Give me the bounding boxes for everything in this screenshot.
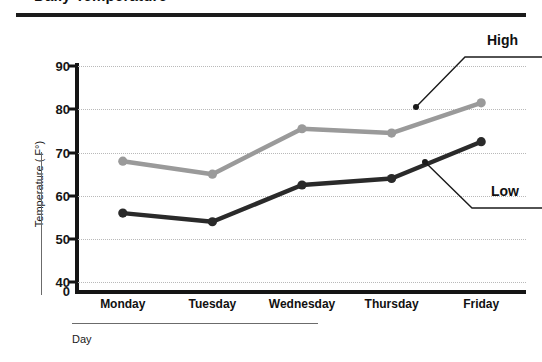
gridline xyxy=(78,153,526,154)
title-divider-rule xyxy=(16,13,526,17)
gridline xyxy=(78,196,526,197)
x-tick-label-monday: Monday xyxy=(100,297,145,311)
y-tick-label: 80 xyxy=(40,102,70,117)
x-tick-label-thursday: Thursday xyxy=(365,297,419,311)
gridline xyxy=(78,239,526,240)
x-tick-label-tuesday: Tuesday xyxy=(188,297,236,311)
gridline xyxy=(78,109,526,110)
temperature-line-chart: Daily Temperature Temperature ( F°) High… xyxy=(0,0,542,362)
y-tick-label: 90 xyxy=(40,59,70,74)
y-axis-title-rule xyxy=(41,152,42,295)
y-tick-label: 50 xyxy=(40,232,70,247)
x-axis-title-rule xyxy=(72,323,318,324)
y-tick-mark xyxy=(69,151,75,154)
y-tick-mark xyxy=(69,108,75,111)
gridline xyxy=(78,282,526,283)
gridline xyxy=(78,66,526,67)
x-tick-label-friday: Friday xyxy=(463,297,499,311)
y-tick-label: 40 xyxy=(40,275,70,290)
y-tick-label: 70 xyxy=(40,145,70,160)
y-tick-mark xyxy=(69,238,75,241)
x-axis-title: Day xyxy=(72,333,92,345)
annotation-label-low: Low xyxy=(491,183,519,199)
annotation-label-high: High xyxy=(487,32,518,48)
plot-area xyxy=(78,66,526,291)
y-tick-mark xyxy=(69,281,75,284)
y-tick-mark xyxy=(69,194,75,197)
chart-title: Daily Temperature xyxy=(34,0,167,4)
y-tick-mark xyxy=(69,65,75,68)
y-tick-label: 60 xyxy=(40,188,70,203)
x-tick-label-wednesday: Wednesday xyxy=(269,297,335,311)
